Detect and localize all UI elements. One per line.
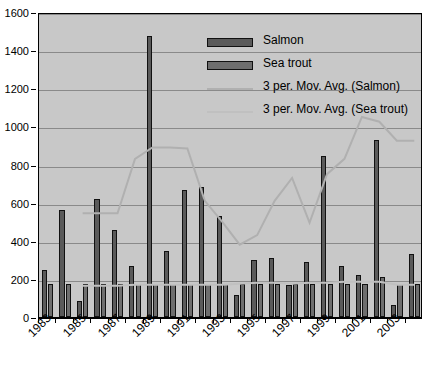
legend-item: Salmon <box>207 32 441 55</box>
x-tick-mark <box>300 318 301 323</box>
y-tick-mark <box>31 204 36 205</box>
x-tick-mark <box>335 318 336 323</box>
y-tick-mark <box>31 89 36 90</box>
bar-sea-trout <box>188 284 193 317</box>
bar-sea-trout <box>415 284 420 317</box>
y-tick-mark <box>31 166 36 167</box>
bar-salmon <box>164 251 169 317</box>
bar-sea-trout <box>362 284 367 317</box>
legend-label: 3 per. Mov. Avg. (Sea trout) <box>263 102 408 116</box>
legend-swatch-line <box>207 111 253 113</box>
bar-salmon <box>94 199 99 317</box>
x-tick-mark <box>125 318 126 323</box>
legend: SalmonSea trout3 per. Mov. Avg. (Salmon)… <box>207 32 441 124</box>
y-tick-mark <box>31 280 36 281</box>
gridline <box>39 128 421 129</box>
bar-salmon <box>374 140 379 317</box>
x-tick-mark <box>55 318 56 323</box>
legend-label: Salmon <box>263 33 304 47</box>
bar-salmon <box>59 210 64 317</box>
y-tick-label: 1000 <box>5 121 29 133</box>
x-tick-mark <box>405 318 406 323</box>
y-axis: 02004006008001000120014001600 <box>0 0 36 330</box>
bar-salmon <box>234 295 239 317</box>
x-tick-mark <box>90 318 91 323</box>
bar-sea-trout <box>136 284 141 317</box>
y-tick-label: 200 <box>11 274 29 286</box>
y-tick-mark <box>31 13 36 14</box>
bar-salmon <box>147 36 152 317</box>
bar-salmon <box>42 270 47 317</box>
legend-swatch-bar <box>207 38 253 47</box>
x-tick-mark <box>160 318 161 323</box>
x-tick-mark <box>265 318 266 323</box>
bar-salmon <box>339 266 344 317</box>
bar-sea-trout <box>328 284 333 317</box>
bar-sea-trout <box>153 284 158 317</box>
chart-container: 02004006008001000120014001600 SalmonSea … <box>0 0 441 368</box>
bar-salmon <box>409 254 414 317</box>
bar-salmon <box>251 260 256 317</box>
bar-sea-trout <box>310 284 315 317</box>
x-tick-mark <box>370 318 371 323</box>
bar-salmon <box>269 258 274 317</box>
bar-sea-trout <box>205 284 210 317</box>
y-tick-label: 0 <box>23 312 29 324</box>
bar-salmon <box>199 187 204 317</box>
bar-sea-trout <box>66 284 71 317</box>
bar-sea-trout <box>118 284 123 317</box>
y-tick-mark <box>31 51 36 52</box>
x-tick-mark <box>230 318 231 323</box>
bar-sea-trout <box>101 284 106 317</box>
legend-item: 3 per. Mov. Avg. (Salmon) <box>207 78 441 101</box>
legend-label: Sea trout <box>263 56 312 70</box>
bar-sea-trout <box>48 284 53 317</box>
y-tick-label: 600 <box>11 198 29 210</box>
bar-salmon <box>182 190 187 317</box>
y-tick-label: 1200 <box>5 83 29 95</box>
bar-sea-trout <box>397 284 402 317</box>
bar-sea-trout <box>170 284 175 317</box>
y-tick-mark <box>31 242 36 243</box>
bar-sea-trout <box>380 277 385 317</box>
bar-sea-trout <box>275 284 280 317</box>
bar-sea-trout <box>293 284 298 317</box>
legend-item: Sea trout <box>207 55 441 78</box>
bar-sea-trout <box>223 284 228 317</box>
legend-swatch-line <box>207 88 253 90</box>
x-axis-labels: 1983198519871989199119931995199719992001… <box>0 324 441 368</box>
y-tick-label: 400 <box>11 236 29 248</box>
bar-sea-trout <box>258 284 263 317</box>
line-moving-avg-salmon <box>83 117 415 245</box>
y-tick-label: 1400 <box>5 45 29 57</box>
plot-area: SalmonSea trout3 per. Mov. Avg. (Salmon)… <box>38 13 422 318</box>
bar-sea-trout <box>240 284 245 317</box>
y-tick-label: 800 <box>11 160 29 172</box>
bar-salmon <box>112 230 117 317</box>
bar-sea-trout <box>83 284 88 317</box>
legend-item: 3 per. Mov. Avg. (Sea trout) <box>207 101 441 124</box>
y-tick-mark <box>31 127 36 128</box>
y-tick-label: 1600 <box>5 7 29 19</box>
bar-salmon <box>129 266 134 317</box>
legend-label: 3 per. Mov. Avg. (Salmon) <box>263 79 400 93</box>
bar-salmon <box>304 262 309 317</box>
bar-salmon <box>321 156 326 317</box>
legend-swatch-bar <box>207 61 253 70</box>
x-tick-mark <box>195 318 196 323</box>
gridline <box>39 14 421 15</box>
bar-sea-trout <box>345 284 350 317</box>
gridline <box>39 167 421 168</box>
bar-salmon <box>217 216 222 317</box>
